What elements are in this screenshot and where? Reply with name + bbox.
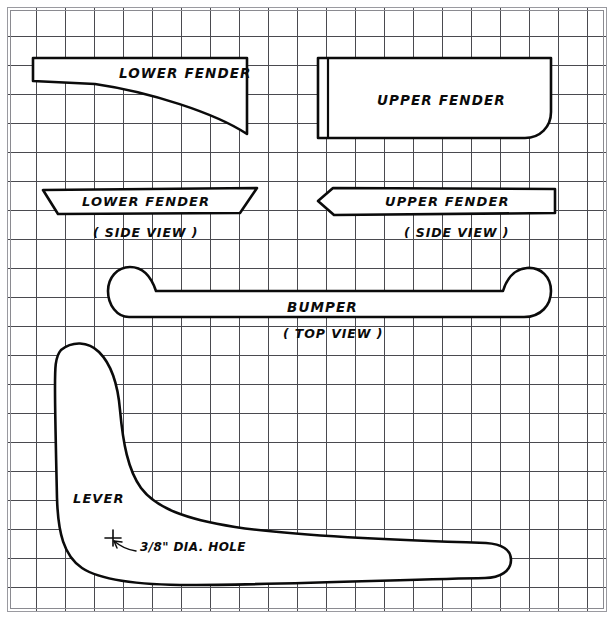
part-lower-fender-side-label: LOWER FENDER	[82, 194, 210, 209]
upper-fender-side-view-caption: ( SIDE VIEW )	[404, 225, 509, 240]
bumper-top-view-caption: ( TOP VIEW )	[283, 326, 383, 341]
drawing-sheet: LOWER FENDER UPPER FENDER LOWER FENDER (…	[0, 0, 614, 619]
part-bumper-label: BUMPER	[287, 299, 358, 315]
lower-fender-side-view-caption: ( SIDE VIEW )	[93, 225, 198, 240]
part-lever-label: LEVER	[73, 491, 125, 506]
hole-dimension-note: 3/8" DIA. HOLE	[140, 540, 246, 554]
technical-drawing-canvas: LOWER FENDER UPPER FENDER LOWER FENDER (…	[0, 0, 614, 619]
part-upper-fender-side-label: UPPER FENDER	[385, 194, 510, 209]
part-upper-fender-label: UPPER FENDER	[377, 92, 506, 108]
part-lower-fender-label: LOWER FENDER	[119, 65, 252, 81]
